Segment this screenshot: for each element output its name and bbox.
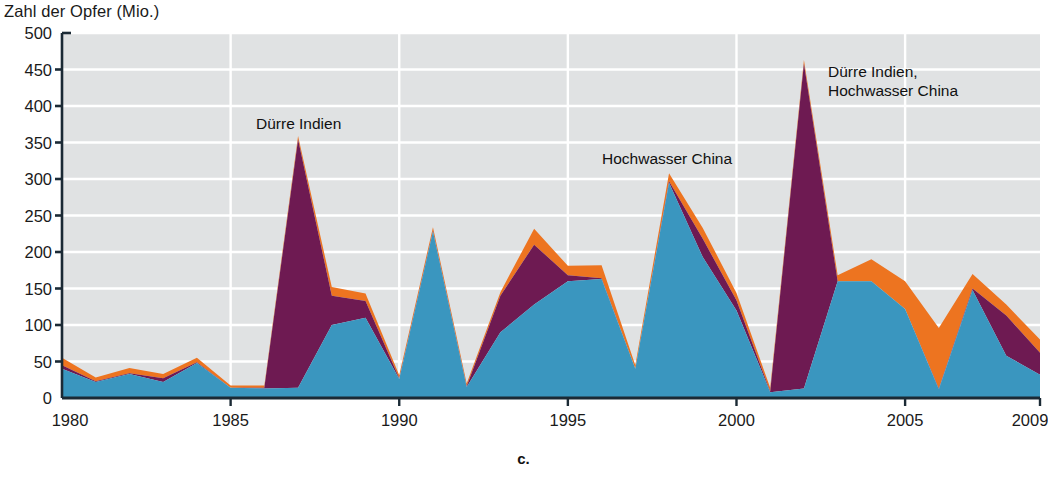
annotation-duerre-indien-1987: Dürre Indien [256, 114, 341, 133]
figure-caption: c. [0, 450, 1047, 467]
y-axis-title: Zahl der Opfer (Mio.) [4, 2, 159, 21]
annotation-duerre-indien-hochwasser-china-2002: Dürre Indien, Hochwasser China [828, 62, 958, 100]
annotation-hochwasser-china-1998: Hochwasser China [602, 149, 732, 168]
